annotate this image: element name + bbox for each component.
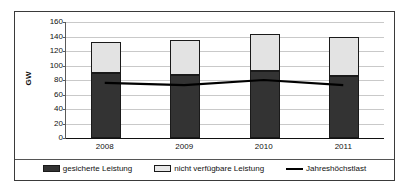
x-axis-tick-label: 2009 — [164, 142, 204, 151]
plot-wrapper: GW 160140120100806040200 200820092010201… — [15, 12, 394, 180]
legend-item: Jahreshöchstlast — [286, 164, 366, 173]
legend-item-label: nicht verfügbare Leistung — [174, 164, 264, 173]
y-axis-tick-label: 80 — [54, 76, 63, 84]
line-swatch — [286, 165, 303, 172]
y-axis-title: GW — [24, 72, 33, 86]
y-axis-tick-label: 60 — [54, 91, 63, 99]
legend-item: gesicherte Leistung — [43, 164, 132, 173]
filled-light-square-swatch — [154, 165, 171, 172]
chart-container: GW 160140120100806040200 200820092010201… — [14, 11, 395, 181]
chart-legend: gesicherte Leistungnicht verfügbare Leis… — [15, 159, 394, 177]
y-axis-tick-label: 160 — [50, 18, 63, 26]
legend-item: nicht verfügbare Leistung — [154, 164, 264, 173]
jahreshoechstlast-line-series — [65, 22, 383, 139]
y-axis-tick-label: 100 — [50, 62, 63, 70]
y-axis-tick-label: 40 — [54, 105, 63, 113]
y-axis-tick-label: 140 — [50, 33, 63, 41]
x-axis-tick-label: 2011 — [323, 142, 363, 151]
y-axis-tick-label: 20 — [54, 120, 63, 128]
legend-item-label: Jahreshöchstlast — [306, 164, 366, 173]
x-axis-tick-label: 2008 — [85, 142, 125, 151]
legend-item-label: gesicherte Leistung — [63, 164, 132, 173]
x-axis-tick-labels: 2008200920102011 — [65, 142, 383, 156]
y-axis-tick-label: 120 — [50, 47, 63, 55]
filled-dark-square-swatch — [43, 165, 60, 172]
y-axis-tick-labels: 160140120100806040200 — [33, 12, 63, 180]
x-axis-tick-label: 2010 — [244, 142, 284, 151]
